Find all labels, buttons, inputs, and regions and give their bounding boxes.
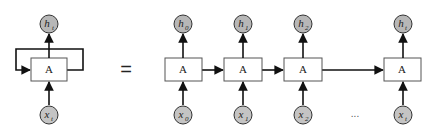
timestep-1: A h 1 x 1 — [224, 15, 262, 124]
input-node: x 0 — [174, 106, 192, 124]
ellipsis: ... — [351, 108, 359, 119]
svg-text:2: 2 — [305, 24, 309, 32]
output-node: h 1 — [234, 15, 252, 33]
timestep-2: A h 2 x 2 — [284, 15, 322, 124]
svg-text:A: A — [398, 63, 406, 75]
svg-text:A: A — [179, 63, 187, 75]
output-node: h 0 — [174, 15, 192, 33]
output-node: h 2 — [294, 15, 312, 33]
equals-sign: = — [120, 58, 132, 80]
input-node: x t — [40, 106, 58, 124]
svg-text:x: x — [398, 108, 404, 120]
svg-text:h: h — [398, 17, 404, 29]
cell-label: A — [45, 63, 53, 75]
rnn-diagram: A h t x t = A — [0, 0, 432, 135]
timestep-0: A h 0 x 0 — [165, 15, 202, 124]
input-node: x 1 — [234, 106, 252, 124]
svg-text:0: 0 — [185, 115, 189, 123]
svg-text:A: A — [299, 63, 307, 75]
svg-text:1: 1 — [245, 24, 249, 32]
svg-text:x: x — [238, 108, 244, 120]
svg-text:x: x — [178, 108, 184, 120]
folded-rnn: A h t x t — [16, 15, 83, 124]
svg-text:A: A — [239, 63, 247, 75]
unrolled-rnn: A h 0 x 0 A h 1 — [165, 15, 421, 124]
svg-text:0: 0 — [185, 24, 189, 32]
output-node: h t — [394, 15, 412, 33]
svg-text:x: x — [298, 108, 304, 120]
svg-text:1: 1 — [245, 115, 249, 123]
svg-text:h: h — [178, 17, 184, 29]
output-node: h t — [40, 15, 58, 33]
svg-text:2: 2 — [305, 115, 309, 123]
svg-text:x: x — [44, 108, 50, 120]
timestep-t: A h t x t — [384, 15, 421, 124]
input-node: x 2 — [294, 106, 312, 124]
svg-text:h: h — [238, 17, 244, 29]
svg-text:h: h — [298, 17, 304, 29]
input-node: x t — [394, 106, 412, 124]
svg-text:h: h — [44, 17, 50, 29]
